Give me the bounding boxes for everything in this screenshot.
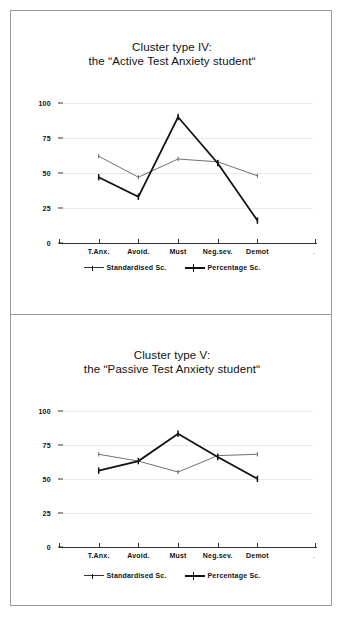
legend-label-percentage-1: Percentage Sc. <box>208 264 261 271</box>
legend-item-standardised-2[interactable]: Standardised Sc. <box>84 572 167 580</box>
legend-marker-line-thin-icon <box>84 264 104 272</box>
legend-item-standardised-1[interactable]: Standardised Sc. <box>84 264 167 272</box>
legend-label-percentage-2: Percentage Sc. <box>208 572 261 579</box>
legend-1: Standardised Sc. Percentage Sc. <box>11 264 333 272</box>
legend-marker-line-thin-icon <box>84 572 104 580</box>
legend-2: Standardised Sc. Percentage Sc. <box>11 572 333 580</box>
legend-marker-line-thick-icon <box>185 264 205 272</box>
figure-frame: Cluster type IV: the ʺActive Test Anxiet… <box>10 10 332 606</box>
legend-item-percentage-1[interactable]: Percentage Sc. <box>185 264 261 272</box>
legend-item-percentage-2[interactable]: Percentage Sc. <box>185 572 261 580</box>
series-line-1 <box>99 454 258 472</box>
legend-marker-line-thick-icon <box>185 572 205 580</box>
chart-panel-cluster-v: Cluster type V: the ʺPassive Test Anxiet… <box>11 315 333 617</box>
chart-panel-cluster-iv: Cluster type IV: the ʺActive Test Anxiet… <box>11 11 333 314</box>
legend-label-standardised-1: Standardised Sc. <box>107 264 167 271</box>
legend-label-standardised-2: Standardised Sc. <box>107 572 167 579</box>
